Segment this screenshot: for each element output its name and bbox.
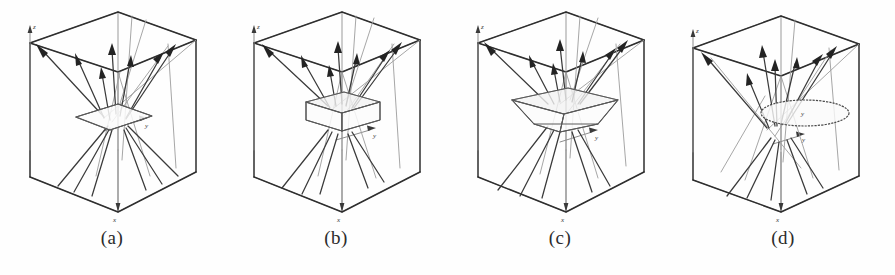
scatterer-frustum <box>512 88 618 132</box>
axis-x-label: x <box>775 216 780 224</box>
panel-b: z x y <box>224 0 448 275</box>
axis-z-label: z <box>32 23 36 31</box>
panel-d: z x y <box>671 0 895 275</box>
panel-d-caption: (d) <box>671 228 895 247</box>
panel-c-drawing: z x y <box>448 0 672 232</box>
axis-x: x <box>112 150 120 224</box>
scatterer-disc: y <box>761 100 849 126</box>
axis-x-label: x <box>336 216 341 224</box>
axis-y: y <box>773 132 806 145</box>
panel-a-caption: (a) <box>0 228 224 247</box>
axis-y-label: y <box>372 132 377 140</box>
scatterer-box <box>306 92 380 131</box>
panel-c: z x y <box>448 0 672 275</box>
panel-b-caption: (b) <box>224 228 448 247</box>
incoming-rays <box>711 20 859 180</box>
panel-c-caption: (c) <box>448 228 672 247</box>
axis-y-label: y <box>144 122 149 130</box>
axis-y-label: y <box>594 134 599 142</box>
panel-a: z x y <box>0 0 224 275</box>
figure-root: z x y <box>0 0 895 275</box>
axis-x-label: x <box>112 216 117 224</box>
panel-b-drawing: z x y <box>224 0 448 232</box>
axis-z-label: z <box>256 23 260 31</box>
axis-z-label: z <box>695 27 699 35</box>
panel-a-drawing: z x y <box>0 0 224 232</box>
axis-x: x <box>560 150 568 224</box>
axis-x-label: x <box>560 216 565 224</box>
panel-d-drawing: z x y <box>671 0 895 232</box>
scatterer-plane <box>76 104 152 130</box>
incoming-rays <box>96 16 196 176</box>
axis-x: x <box>336 150 344 224</box>
axis-z-label: z <box>480 23 484 31</box>
